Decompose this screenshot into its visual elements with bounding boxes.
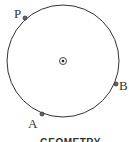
point-p: P (14, 6, 27, 21)
point-b-label: B (119, 78, 128, 93)
point-a: A (28, 112, 44, 131)
point-a-label: A (28, 116, 38, 131)
geometry-diagram: P B A GEOMETRY (0, 0, 129, 142)
caption: GEOMETRY (40, 137, 101, 142)
point-p-label: P (14, 6, 21, 21)
center-marker (60, 58, 67, 65)
